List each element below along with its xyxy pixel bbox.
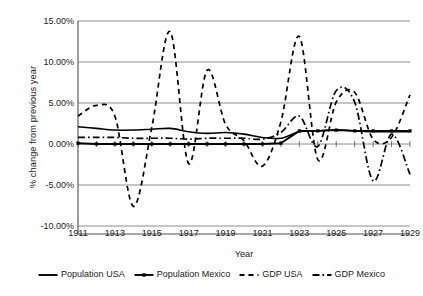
x-axis-tick-label: 1921 — [242, 228, 282, 238]
solid-line-marker-icon — [134, 270, 154, 280]
series-marker-1 — [353, 129, 356, 132]
legend-marker — [142, 273, 145, 276]
x-axis-tick-label: 1911 — [58, 228, 98, 238]
legend-item[interactable]: GDP Mexico — [312, 269, 385, 280]
series-line-2 — [78, 31, 410, 206]
x-axis-tick-label: 1925 — [316, 228, 356, 238]
series-marker-1 — [187, 142, 190, 145]
series-marker-1 — [335, 128, 338, 131]
legend-item[interactable]: GDP USA — [239, 269, 302, 280]
series-marker-1 — [150, 142, 153, 145]
y-axis-tick-label: 15.00% — [28, 16, 74, 26]
series-marker-1 — [132, 142, 135, 145]
y-axis-tick-label: 10.00% — [28, 57, 74, 67]
series-marker-1 — [390, 129, 393, 132]
legend-item-label: Population USA — [61, 269, 125, 280]
y-axis-tick-label: -5.00% — [28, 180, 74, 190]
series-marker-1 — [95, 142, 98, 145]
line-chart: % change from previous year 15.00%10.00%… — [0, 0, 423, 296]
x-axis-tick-label: 1927 — [353, 228, 393, 238]
series-marker-1 — [206, 142, 209, 145]
y-axis-tick-label: 5.00% — [28, 98, 74, 108]
legend-item-label: GDP USA — [262, 269, 302, 280]
x-axis-tick-label: 1917 — [169, 228, 209, 238]
series-marker-1 — [408, 129, 411, 132]
dashed-line-icon — [239, 270, 259, 280]
series-marker-1 — [298, 129, 301, 132]
x-axis-tick-label: 1923 — [279, 228, 319, 238]
series-marker-1 — [316, 129, 319, 132]
legend-item-label: Population Mexico — [157, 269, 231, 280]
y-axis-tick-label: 0.00% — [28, 139, 74, 149]
legend-item[interactable]: Population USA — [38, 269, 125, 280]
dash-dot-line-icon — [312, 270, 332, 280]
legend-item-label: GDP Mexico — [335, 269, 385, 280]
x-axis-tick-label: 1919 — [206, 228, 246, 238]
series-marker-1 — [169, 142, 172, 145]
series-marker-1 — [261, 142, 264, 145]
x-axis-tick-label: 1913 — [95, 228, 135, 238]
series-marker-1 — [224, 142, 227, 145]
series-marker-1 — [372, 129, 375, 132]
x-axis-title: Year — [78, 249, 410, 259]
chart-legend: Population USAPopulation MexicoGDP USAGD… — [0, 269, 423, 280]
series-marker-1 — [242, 142, 245, 145]
solid-line-icon — [38, 270, 58, 280]
x-axis-tick-label: 1929 — [390, 228, 423, 238]
series-marker-1 — [76, 142, 79, 145]
y-axis-tick-labels: 15.00%10.00%5.00%0.00%-5.00%-10.00% — [24, 0, 74, 240]
series-marker-1 — [113, 142, 116, 145]
x-axis-tick-label: 1915 — [132, 228, 172, 238]
legend-item[interactable]: Population Mexico — [134, 269, 231, 280]
series-marker-1 — [279, 142, 282, 145]
